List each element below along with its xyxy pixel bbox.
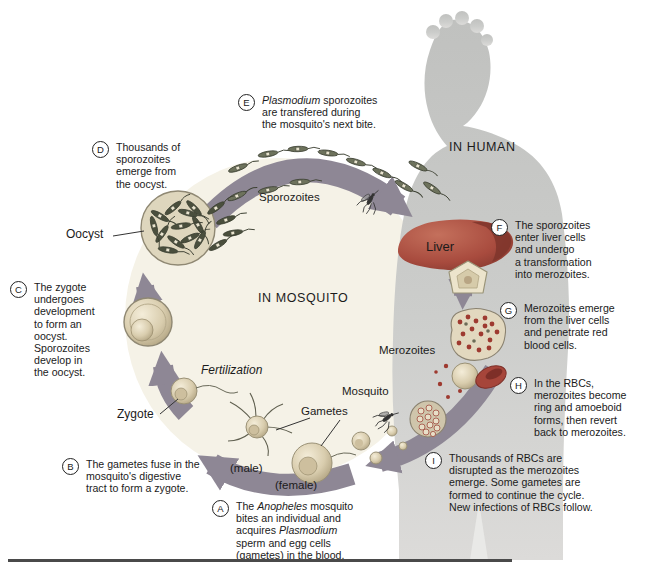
step-g-text: Merozoites emerge from the liver cells a… [524,302,615,351]
step-g-badge: G [500,302,517,319]
step-f: F The sporozoites enter liver cells and … [491,219,592,280]
developing-oocyst-icon [124,298,172,346]
female-label: (female) [275,479,317,492]
step-h: H In the RBCs, merozoites become ring an… [510,377,626,438]
step-b: B The gametes fuse in the mosquito's dig… [62,458,200,495]
step-f-badge: F [491,219,508,236]
step-d: D Thousands of sporozoites emerge from t… [92,141,180,190]
bottom-rule [8,559,512,562]
step-i-badge: I [425,452,442,469]
step-e: E Plasmodium sporozoites are transfered … [238,94,377,131]
step-a-text: The Anopheles mosquito bites an individu… [236,500,353,561]
fertilization-label: Fertilization [201,364,262,377]
in-mosquito-label: IN MOSQUITO [258,292,348,305]
gametes-label: Gametes [301,405,348,418]
liver-label: Liver [426,240,454,253]
step-e-badge: E [238,94,255,111]
merozoites-label: Merozoites [379,344,435,357]
step-b-badge: B [62,458,79,475]
step-e-text: Plasmodium sporozoites are transfered du… [262,94,377,131]
step-i: I Thousands of RBCs are disrupted as the… [425,452,593,513]
oocyst-pointer-line [113,231,144,236]
oocyst-label: Oocyst [66,228,103,241]
step-c: C The zygote undergoes development to fo… [10,281,95,379]
step-a: A The Anopheles mosquito bites an indivi… [212,500,353,561]
in-human-label: IN HUMAN [449,141,516,154]
step-c-badge: C [10,281,27,298]
step-c-text: The zygote undergoes development to form… [34,281,95,379]
step-h-text: In the RBCs, merozoites become ring and … [534,377,626,438]
malaria-life-cycle-diagram: IN MOSQUITO IN HUMAN Sporozoites Oocyst … [0,0,650,582]
step-g: G Merozoites emerge from the liver cells… [500,302,615,351]
step-d-badge: D [92,141,109,158]
zygote-label: Zygote [117,408,154,421]
step-a-badge: A [212,500,229,517]
mosquito-label: Mosquito [342,385,389,398]
infected-rbc-icon [410,401,446,437]
step-h-badge: H [510,377,527,394]
step-f-text: The sporozoites enter liver cells and un… [515,219,592,280]
sporozoites-label: Sporozoites [259,191,320,204]
step-b-text: The gametes fuse in the mosquito's diges… [86,458,200,495]
step-d-text: Thousands of sporozoites emerge from the… [116,141,180,190]
step-i-text: Thousands of RBCs are disrupted as the m… [449,452,593,513]
male-label: (male) [230,462,263,475]
